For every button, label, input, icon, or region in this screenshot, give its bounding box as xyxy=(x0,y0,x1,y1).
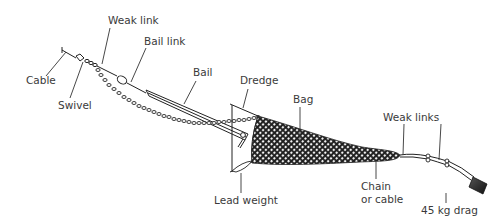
weak-links xyxy=(426,154,474,180)
label-cable: Cable xyxy=(26,74,56,86)
label-chain: Chain xyxy=(361,180,391,192)
dredge-diagram: Weak link Bail link Cable Swivel Bail Dr… xyxy=(0,0,492,222)
dredge-chain xyxy=(96,69,260,125)
bail-link xyxy=(116,74,146,93)
label-drag: 45 kg drag xyxy=(421,204,478,216)
label-bail-link: Bail link xyxy=(144,35,186,47)
lead-weight xyxy=(232,161,252,172)
label-bag: Bag xyxy=(293,93,313,105)
swivel xyxy=(76,54,84,61)
lead-chain xyxy=(85,59,97,66)
label-lead-weight: Lead weight xyxy=(214,194,278,206)
label-weak-links: Weak links xyxy=(383,111,439,123)
chain-or-cable xyxy=(400,154,428,159)
label-dredge: Dredge xyxy=(240,74,278,86)
label-swivel: Swivel xyxy=(58,99,92,111)
label-or-cable: or cable xyxy=(361,193,403,205)
cable xyxy=(62,47,76,58)
drag-weight xyxy=(469,177,487,194)
label-bail: Bail xyxy=(193,66,212,78)
bag xyxy=(252,116,400,165)
label-weak-link: Weak link xyxy=(108,14,160,26)
